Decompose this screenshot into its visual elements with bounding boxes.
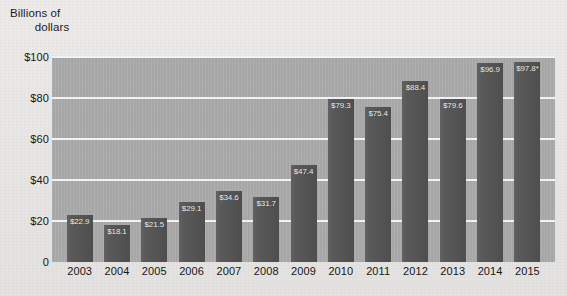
bar-value-label: $29.1: [182, 204, 202, 213]
x-axis-tick-label: 2007: [210, 265, 247, 285]
bar-slot: $88.4: [397, 57, 434, 262]
x-axis-tick-label: 2011: [360, 265, 397, 285]
x-axis: 2003200420052006200720082009201020112012…: [52, 265, 555, 285]
bar-value-label: $31.7: [256, 199, 276, 208]
bar[interactable]: $79.6: [440, 99, 466, 262]
plot-area: $22.9$18.1$21.5$29.1$34.6$31.7$47.4$79.3…: [52, 57, 555, 262]
bar-series: $22.9$18.1$21.5$29.1$34.6$31.7$47.4$79.3…: [52, 57, 555, 262]
bar[interactable]: $31.7: [253, 197, 279, 262]
y-axis-tick-label: 0: [3, 256, 49, 268]
bar-slot: $22.9: [61, 57, 98, 262]
bar[interactable]: $34.6: [216, 191, 242, 262]
x-axis-tick-label: 2003: [61, 265, 98, 285]
bar-slot: $79.6: [434, 57, 471, 262]
bar-value-label: $34.6: [219, 193, 239, 202]
bar-slot: $29.1: [173, 57, 210, 262]
y-axis-tick-label: $40: [3, 174, 49, 186]
bar-value-label: $79.6: [443, 101, 463, 110]
bar-value-label: $96.9: [480, 65, 500, 74]
bar[interactable]: $21.5: [141, 218, 167, 262]
y-axis-tick-label: $100: [3, 51, 49, 63]
y-axis-title-line2: dollars: [8, 20, 116, 34]
bar-value-label: $88.4: [406, 83, 426, 92]
bar[interactable]: $18.1: [104, 225, 130, 262]
bar-slot: $79.3: [322, 57, 359, 262]
x-axis-tick-label: 2015: [509, 265, 546, 285]
x-axis-tick-label: 2006: [173, 265, 210, 285]
bar[interactable]: $22.9: [67, 215, 93, 262]
bar[interactable]: $29.1: [179, 202, 205, 262]
bar-slot: $18.1: [98, 57, 135, 262]
x-axis-tick-label: 2004: [98, 265, 135, 285]
y-axis-tick-label: $20: [3, 215, 49, 227]
y-axis-tick-label: $60: [3, 133, 49, 145]
bar[interactable]: $75.4: [365, 107, 391, 262]
y-axis-tick-label: $80: [3, 92, 49, 104]
bar-value-label: $22.9: [70, 217, 90, 226]
x-axis-tick-label: 2008: [248, 265, 285, 285]
y-axis-title: Billions of dollars: [8, 6, 116, 34]
x-axis-tick-label: 2013: [434, 265, 471, 285]
bar-slot: $97.8*: [509, 57, 546, 262]
x-axis-tick-label: 2005: [136, 265, 173, 285]
x-axis-tick-label: 2012: [397, 265, 434, 285]
bar-value-label: $79.3: [331, 101, 351, 110]
bar-value-label: $75.4: [368, 109, 388, 118]
bar[interactable]: $47.4: [291, 165, 317, 262]
bar-value-label: $47.4: [294, 167, 314, 176]
x-axis-tick-label: 2014: [471, 265, 508, 285]
bar[interactable]: $97.8*: [514, 62, 540, 262]
bar-slot: $21.5: [136, 57, 173, 262]
bar[interactable]: $96.9: [477, 63, 503, 262]
y-axis-title-line1: Billions of: [8, 6, 116, 20]
bar-slot: $75.4: [360, 57, 397, 262]
chart-figure: Billions of dollars $100$80$60$40$200 $2…: [0, 0, 567, 296]
x-axis-tick-label: 2009: [285, 265, 322, 285]
bar-value-label: $97.8*: [516, 64, 539, 73]
bar-slot: $31.7: [248, 57, 285, 262]
bar[interactable]: $79.3: [328, 99, 354, 262]
x-axis-tick-label: 2010: [322, 265, 359, 285]
bar-slot: $47.4: [285, 57, 322, 262]
bar-value-label: $18.1: [107, 227, 127, 236]
bar-slot: $34.6: [210, 57, 247, 262]
y-axis: $100$80$60$40$200: [0, 57, 49, 262]
bar-slot: $96.9: [471, 57, 508, 262]
bar[interactable]: $88.4: [402, 81, 428, 262]
bar-value-label: $21.5: [145, 220, 165, 229]
